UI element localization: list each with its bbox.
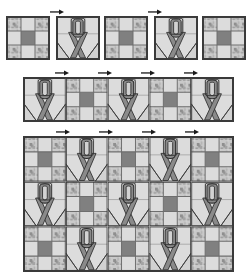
orientation-arrow-icon: [56, 129, 70, 135]
block-nine-patch: [104, 16, 148, 60]
orientation-arrow-icon: [185, 129, 199, 135]
orientation-arrow-icon: [184, 70, 198, 76]
orientation-arrow-icon: [142, 129, 156, 135]
orientation-arrow-icon: [50, 9, 64, 15]
orientation-arrow-icon: [98, 70, 112, 76]
orientation-arrow-icon: [55, 70, 69, 76]
block-ribbon: [154, 16, 198, 60]
block-nine-patch: [6, 16, 50, 60]
block-strip: [23, 77, 234, 122]
block-ribbon: [56, 16, 100, 60]
block-nine-patch: [202, 16, 246, 60]
orientation-arrow-icon: [141, 70, 155, 76]
orientation-arrow-icon: [99, 129, 113, 135]
quilt-top: [23, 136, 234, 272]
orientation-arrow-icon: [148, 9, 162, 15]
quilt-pattern-diagram: [0, 0, 252, 279]
